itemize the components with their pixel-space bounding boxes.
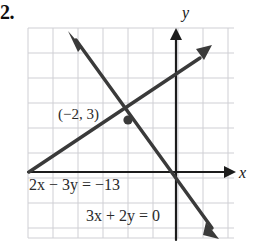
intersection-point-label: (−2, 3) [58, 106, 99, 123]
figure-page: 2. [0, 0, 254, 243]
intersection-point-dot [123, 115, 132, 124]
y-axis-arrowhead [170, 28, 182, 40]
coordinate-graph: y x (−2, 3) 2x − 3y = −13 3x + 2y = 0 [0, 0, 254, 243]
line-2-arrowhead-top [68, 31, 82, 52]
x-axis-label: x [238, 164, 246, 181]
equation-label-1: 2x − 3y = −13 [29, 176, 120, 194]
line-2x-3y-eq-neg13 [29, 58, 200, 172]
equation-label-2: 3x + 2y = 0 [86, 207, 160, 225]
line-3x-2y-eq-0 [76, 40, 212, 228]
x-axis-arrowhead [224, 166, 236, 178]
y-axis-label: y [180, 4, 190, 22]
